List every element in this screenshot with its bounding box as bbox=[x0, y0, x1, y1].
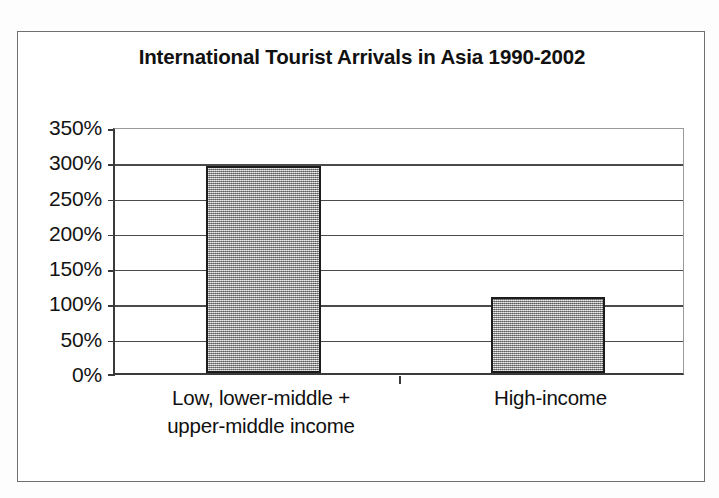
chart-frame: International Tourist Arrivals in Asia 1… bbox=[17, 31, 705, 482]
y-tick-label-300: 300% bbox=[49, 151, 102, 175]
y-tick-label-100: 100% bbox=[49, 292, 102, 316]
y-tick-mark-150 bbox=[108, 270, 115, 272]
y-tick-mark-50 bbox=[108, 341, 115, 343]
x-tick-label-line-2: upper-middle income bbox=[113, 412, 409, 440]
y-tick-mark-300 bbox=[108, 164, 115, 166]
y-tick-mark-350 bbox=[108, 129, 115, 131]
y-tick-label-200: 200% bbox=[49, 222, 102, 246]
x-tick-label-high-income: High-income bbox=[423, 384, 678, 412]
bar-high-income[interactable] bbox=[491, 297, 605, 373]
y-tick-label-150: 150% bbox=[49, 257, 102, 281]
category-axis-tick bbox=[399, 376, 401, 384]
gridline-200 bbox=[115, 235, 683, 236]
x-tick-label-line-1: Low, lower-middle + bbox=[113, 384, 409, 412]
y-tick-mark-0 bbox=[108, 374, 115, 376]
y-tick-mark-250 bbox=[108, 200, 115, 202]
x-tick-label-line-1: High-income bbox=[423, 384, 678, 412]
y-tick-label-350: 350% bbox=[49, 116, 102, 140]
y-tick-mark-100 bbox=[108, 305, 115, 307]
bar-low-lower-middle-upper-middle-income[interactable] bbox=[206, 166, 321, 373]
gridline-150 bbox=[115, 270, 683, 271]
y-tick-label-50: 50% bbox=[61, 328, 102, 352]
y-tick-mark-200 bbox=[108, 235, 115, 237]
gridline-250 bbox=[115, 200, 683, 201]
x-tick-label-low-middle-income: Low, lower-middle + upper-middle income bbox=[113, 384, 409, 440]
gridline-300 bbox=[115, 164, 683, 165]
plot-area bbox=[113, 128, 684, 375]
x-axis-labels: Low, lower-middle + upper-middle income … bbox=[113, 384, 684, 464]
y-axis-labels: 350% 300% 250% 200% 150% 100% 50% 0% bbox=[18, 128, 110, 375]
chart-title: International Tourist Arrivals in Asia 1… bbox=[18, 45, 706, 69]
y-tick-label-250: 250% bbox=[49, 187, 102, 211]
y-tick-label-0: 0% bbox=[72, 363, 102, 387]
